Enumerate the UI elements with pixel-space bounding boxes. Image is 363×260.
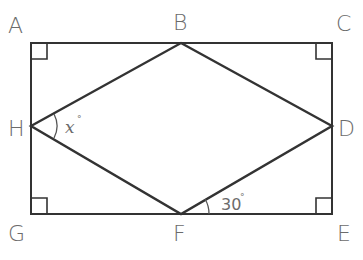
right-angle-mark-e	[316, 198, 332, 214]
rectangle-aceg	[31, 43, 332, 214]
label-g: G	[8, 221, 25, 246]
angle-label-30: 30	[221, 195, 241, 214]
angle-unit-30: °	[240, 192, 245, 202]
label-c: C	[336, 11, 351, 36]
angle-arc-h	[54, 114, 57, 138]
right-angle-mark-c	[316, 43, 332, 59]
label-a: A	[8, 13, 23, 38]
label-b: B	[173, 10, 187, 35]
angle-label-x: x	[65, 117, 75, 137]
angle-arc-f	[205, 199, 209, 214]
label-e: E	[337, 221, 351, 246]
right-angle-mark-g	[31, 198, 47, 214]
right-angle-mark-a	[31, 43, 47, 59]
label-f: F	[173, 221, 186, 246]
angle-unit-x: °	[77, 114, 82, 124]
geometry-diagram: A B C D E F G H x ° 30 °	[0, 0, 363, 260]
label-h: H	[8, 116, 25, 141]
label-d: D	[338, 116, 355, 141]
quadrilateral-bdfh	[31, 43, 332, 214]
